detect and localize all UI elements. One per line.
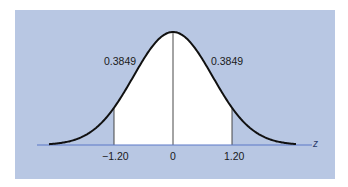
tick-label-neg-1-20: −1.20 [102,151,129,162]
tick-label-pos-1-20: 1.20 [224,151,244,162]
area-label-right: 0.3849 [211,56,243,67]
axis-variable-label: z [313,139,318,149]
area-label-left: 0.3849 [104,56,136,67]
tick-label-zero: 0 [170,151,176,162]
